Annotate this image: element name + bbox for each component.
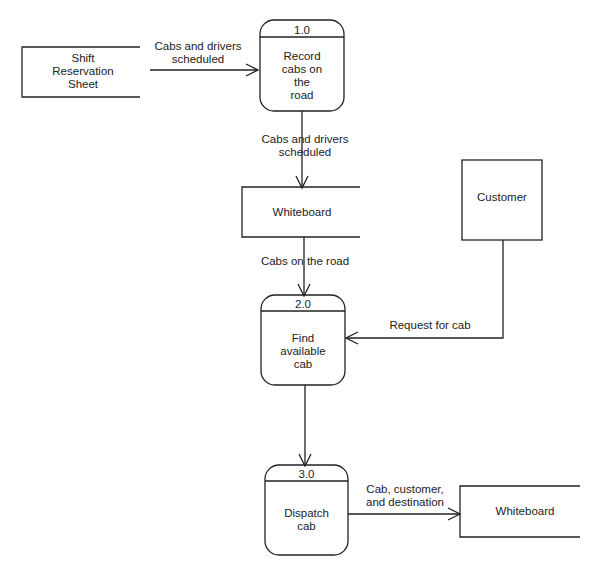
- process-3-label: Dispatch cab: [265, 507, 348, 533]
- process-label-line: cabs on: [260, 63, 344, 76]
- process-1-label: Record cabs on the road: [260, 50, 344, 102]
- store-whiteboard-1: Whiteboard: [262, 206, 342, 219]
- flow-label-cab-customer-destination: Cab, customer, and destination: [350, 483, 460, 509]
- process-label-line: cab: [261, 358, 345, 371]
- process-label-line: available: [261, 345, 345, 358]
- flow-label-line: and destination: [350, 496, 460, 509]
- flow-label-request-for-cab: Request for cab: [380, 319, 480, 332]
- flow-label-line: scheduled: [148, 53, 248, 66]
- entity-customer: Customer: [462, 191, 542, 204]
- store-label-line: Sheet: [40, 78, 126, 91]
- process-1-id: 1.0: [260, 24, 344, 37]
- process-label-line: the: [260, 76, 344, 89]
- process-label-line: Find: [261, 332, 345, 345]
- process-2-label: Find available cab: [261, 332, 345, 371]
- flow-label-cabs-drivers-1: Cabs and drivers scheduled: [148, 40, 248, 66]
- flow-label-cabs-on-road: Cabs on the road: [255, 255, 355, 268]
- store-label-line: Shift: [40, 52, 126, 65]
- flow-label-line: Cabs and drivers: [255, 133, 355, 146]
- process-2-id: 2.0: [261, 298, 345, 311]
- store-label-line: Reservation: [40, 65, 126, 78]
- process-label-line: cab: [265, 520, 348, 533]
- process-label-line: Record: [260, 50, 344, 63]
- flow-label-line: Cab, customer,: [350, 483, 460, 496]
- store-whiteboard-2: Whiteboard: [480, 505, 570, 518]
- flow-label-cabs-drivers-2: Cabs and drivers scheduled: [255, 133, 355, 159]
- store-shift-reservation-sheet: Shift Reservation Sheet: [40, 52, 126, 91]
- process-label-line: Dispatch: [265, 507, 348, 520]
- flow-label-line: Cabs and drivers: [148, 40, 248, 53]
- process-label-line: road: [260, 89, 344, 102]
- process-3-id: 3.0: [265, 468, 348, 481]
- flow-label-line: scheduled: [255, 146, 355, 159]
